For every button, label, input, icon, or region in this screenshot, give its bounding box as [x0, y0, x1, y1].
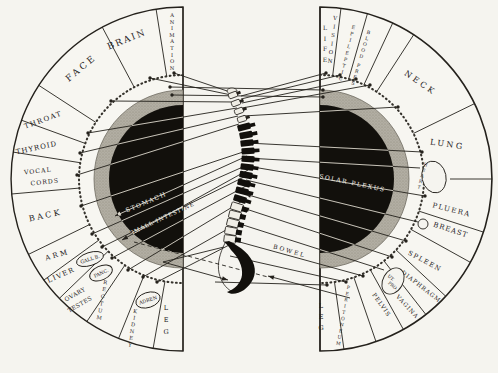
endpoint-dot: [141, 275, 144, 278]
endpoint-dot: [168, 85, 171, 88]
endpoint-dot: [321, 95, 324, 98]
endpoint-dot: [344, 280, 347, 283]
endpoint-dot: [368, 83, 371, 86]
right-sector-label-leg: LEG: [318, 302, 323, 332]
endpoint-dot: [75, 173, 78, 176]
endpoint-dot: [324, 71, 327, 74]
endpoint-dot: [390, 255, 393, 258]
endpoint-dot: [361, 274, 364, 277]
left-sector-label-leg: LEG: [163, 304, 168, 336]
endpoint-dot: [109, 99, 112, 102]
endpoint-dot: [79, 204, 82, 207]
nerve-chart: STOMACHSMALL INTESTINESOLAR PLEXUSBOWEL …: [0, 0, 498, 373]
nerve-chart-figure: STOMACHSMALL INTESTINESOLAR PLEXUSBOWEL …: [0, 0, 498, 373]
endpoint-dot: [110, 256, 113, 259]
endpoint-dot: [155, 280, 158, 283]
endpoint-dot: [321, 88, 324, 91]
endpoint-dot: [148, 76, 151, 79]
endpoint-dot: [90, 232, 93, 235]
endpoint-dot: [86, 131, 89, 134]
endpoint-dot: [170, 93, 173, 96]
endpoint-dot: [396, 105, 399, 108]
endpoint-dot: [325, 283, 328, 286]
endpoint-dot: [420, 150, 423, 153]
endpoint-dot: [126, 268, 129, 271]
endpoint-dot: [423, 194, 426, 197]
endpoint-dot: [100, 245, 103, 248]
endpoint-dot: [78, 151, 81, 154]
breast-circle: [418, 219, 428, 229]
endpoint-dot: [404, 239, 407, 242]
endpoint-dot: [172, 71, 175, 74]
